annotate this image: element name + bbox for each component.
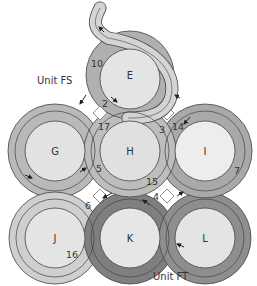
band-number-3: 3 [159,124,165,135]
label-I: I [204,146,207,157]
band-number-10: 10 [91,58,103,69]
band-number-6: 6 [85,200,91,211]
unit-ft-label: Unit FT [153,271,189,282]
band-number-2: 2 [102,98,108,109]
label-H: H [126,146,134,157]
unit-fs-label: Unit FS [37,75,72,86]
band-number-15: 15 [146,176,158,187]
stratigraphic-diagram: E G H I J K L 10 2 17 3 14 5 15 4 7 6 16… [0,0,257,286]
band-number-17: 17 [98,121,110,132]
label-L: L [202,233,208,244]
band-number-5: 5 [96,163,102,174]
band-number-14: 14 [172,121,184,132]
band-number-7: 7 [234,165,240,176]
band-number-4: 4 [153,191,159,202]
label-E: E [127,70,133,81]
label-J: J [53,233,57,244]
label-K: K [127,233,134,244]
label-G: G [51,146,59,157]
band-number-16: 16 [66,249,78,260]
